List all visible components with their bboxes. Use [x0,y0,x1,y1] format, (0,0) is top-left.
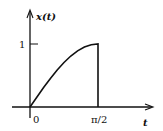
x-axis-label: t [143,117,148,128]
y-axis-label: x(t) [35,11,56,22]
origin-label: 0 [33,114,39,125]
x-tick-label: π/2 [91,114,107,125]
signal-curve [30,44,98,107]
y-tick-label: 1 [19,39,25,50]
chart: x(t) 1 0 π/2 t [0,0,163,131]
